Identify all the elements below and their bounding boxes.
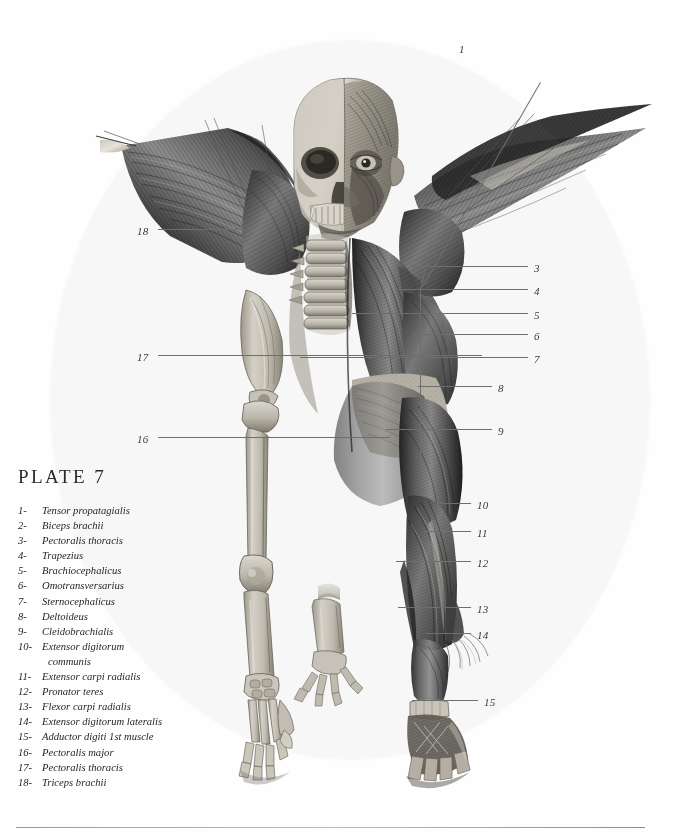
- legend-label: Adductor digiti 1st muscle: [42, 729, 233, 744]
- legend-label: Triceps brachii: [42, 775, 233, 790]
- callout-5: 5: [534, 309, 540, 321]
- legend-label: Cleidobrachialis: [42, 624, 233, 639]
- legend-item-1: 1- Tensor propatagialis: [18, 503, 233, 518]
- legend-item-17: 17- Pectoralis thoracis: [18, 760, 233, 775]
- plate-page: 1 3 4 5 6 7 8 9 10 11 12 13 14 15 16 17 …: [0, 0, 684, 839]
- legend-label: Trapezius: [42, 548, 233, 563]
- leader-line-15: [412, 700, 478, 701]
- legend-label: Extensor carpi radialis: [42, 669, 233, 684]
- legend-item-10: 10- Extensor digitorum: [18, 639, 233, 654]
- legend-number: 12-: [18, 684, 42, 699]
- legend-label: Pectoralis major: [42, 745, 233, 760]
- leader-line-3: [412, 266, 528, 267]
- leader-line-1-vertical: [420, 290, 421, 465]
- legend-item-14: 14- Extensor digitorum lateralis: [18, 714, 233, 729]
- leader-line-17: [158, 355, 482, 356]
- legend-label: Sternocephalicus: [42, 594, 233, 609]
- legend-item-12: 12- Pronator teres: [18, 684, 233, 699]
- callout-16: 16: [137, 433, 149, 445]
- leader-line-11: [424, 531, 471, 532]
- legend-list: 1- Tensor propatagialis 2- Biceps brachi…: [18, 503, 233, 790]
- legend-number: 16-: [18, 745, 42, 760]
- legend-item-13: 13- Flexor carpi radialis: [18, 699, 233, 714]
- legend-number: 17-: [18, 760, 42, 775]
- legend-item-18: 18- Triceps brachii: [18, 775, 233, 790]
- legend-number: 14-: [18, 714, 42, 729]
- legend-label: Tensor propatagialis: [42, 503, 233, 518]
- legend-number: 3-: [18, 533, 42, 548]
- leader-line-4: [398, 289, 528, 290]
- legend-number: 4-: [18, 548, 42, 563]
- leader-line-16: [158, 437, 390, 438]
- callout-7: 7: [534, 353, 540, 365]
- legend-item-9: 9- Cleidobrachialis: [18, 624, 233, 639]
- legend-item-6: 6- Omotransversarius: [18, 578, 233, 593]
- callout-18: 18: [137, 225, 149, 237]
- legend-number: 5-: [18, 563, 42, 578]
- legend-label: Brachiocephalicus: [42, 563, 233, 578]
- page-title: PLATE 7: [18, 466, 106, 488]
- callout-11: 11: [477, 527, 488, 539]
- legend-label: Extensor digitorum: [42, 639, 233, 654]
- leader-line-12: [396, 561, 471, 562]
- callout-14: 14: [477, 629, 489, 641]
- leader-line-18: [158, 229, 244, 230]
- legend-label: Pectoralis thoracis: [42, 760, 233, 775]
- leader-line-7: [300, 357, 528, 358]
- legend-label: Omotransversarius: [42, 578, 233, 593]
- leader-line-9: [386, 429, 492, 430]
- legend-item-8: 8- Deltoideus: [18, 609, 233, 624]
- callout-1: 1: [459, 43, 465, 55]
- legend-number: 15-: [18, 729, 42, 744]
- legend-label: Pectoralis thoracis: [42, 533, 233, 548]
- leader-line-8: [418, 386, 492, 387]
- leader-line-13: [398, 607, 471, 608]
- callout-10: 10: [477, 499, 489, 511]
- callout-4: 4: [534, 285, 540, 297]
- callout-8: 8: [498, 382, 504, 394]
- legend-item-15: 15- Adductor digiti 1st muscle: [18, 729, 233, 744]
- legend-number: 9-: [18, 624, 42, 639]
- legend-label: Deltoideus: [42, 609, 233, 624]
- legend-item-5: 5- Brachiocephalicus: [18, 563, 233, 578]
- leader-line-6: [412, 334, 528, 335]
- legend-number: 1-: [18, 503, 42, 518]
- callout-9: 9: [498, 425, 504, 437]
- callout-15: 15: [484, 696, 496, 708]
- legend-number: 10-: [18, 639, 42, 654]
- legend-number: 6-: [18, 578, 42, 593]
- callout-13: 13: [477, 603, 489, 615]
- legend-label: Biceps brachii: [42, 518, 233, 533]
- callout-6: 6: [534, 330, 540, 342]
- legend-label: Flexor carpi radialis: [42, 699, 233, 714]
- legend-item-16: 16- Pectoralis major: [18, 745, 233, 760]
- legend-item-4: 4- Trapezius: [18, 548, 233, 563]
- page-bottom-rule: [16, 827, 645, 828]
- leader-line-5: [352, 313, 528, 314]
- legend-number: 18-: [18, 775, 42, 790]
- legend-number: 11-: [18, 669, 42, 684]
- legend-number: 13-: [18, 699, 42, 714]
- legend-item-7: 7- Sternocephalicus: [18, 594, 233, 609]
- legend-item-2: 2- Biceps brachii: [18, 518, 233, 533]
- callout-12: 12: [477, 557, 489, 569]
- legend-number: 2-: [18, 518, 42, 533]
- legend-label: Extensor digitorum lateralis: [42, 714, 233, 729]
- leader-line-10: [438, 503, 471, 504]
- legend-item-3: 3- Pectoralis thoracis: [18, 533, 233, 548]
- leader-line-14: [426, 633, 471, 634]
- legend-number: 8-: [18, 609, 42, 624]
- legend-item-11: 11- Extensor carpi radialis: [18, 669, 233, 684]
- legend-label: Pronator teres: [42, 684, 233, 699]
- callout-3: 3: [534, 262, 540, 274]
- legend-item-10-continuation: communis: [18, 654, 233, 669]
- callout-17: 17: [137, 351, 149, 363]
- legend-number: 7-: [18, 594, 42, 609]
